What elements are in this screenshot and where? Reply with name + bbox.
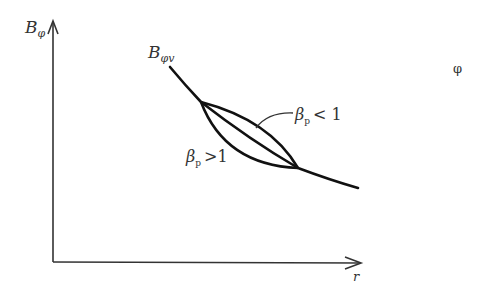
leader-line [256,113,293,128]
beta-p-less-than-1-label: βp< 1 [294,105,342,126]
curve-label: Bφv [147,42,175,65]
x-axis [53,262,360,263]
b-phi-v-curve [170,67,358,188]
y-axis-label: Bφ [24,17,46,40]
x-axis-label: r [353,269,360,284]
stray-phi-symbol: φ [453,61,462,76]
beta-p-greater-than-1-label: βp>1 [185,147,228,168]
diagram-canvas: Bφ Bφv βp< 1 βp>1 φ r [0,0,483,292]
